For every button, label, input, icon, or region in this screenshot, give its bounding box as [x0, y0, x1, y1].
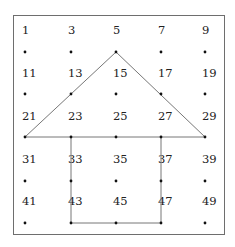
grid-dot: [115, 93, 118, 96]
grid-dot: [24, 93, 27, 96]
grid-dot: [24, 136, 27, 139]
grid-dot: [204, 136, 207, 139]
grid-dot: [160, 93, 163, 96]
grid-dot: [115, 180, 118, 183]
grid-dot: [70, 136, 73, 139]
house-drawing: [0, 0, 235, 247]
grid-dot: [70, 180, 73, 183]
grid-dot: [70, 93, 73, 96]
grid-dot: [160, 222, 163, 225]
grid-dot: [204, 180, 207, 183]
grid-dot: [70, 222, 73, 225]
grid-dot: [160, 51, 163, 54]
grid-dot: [24, 180, 27, 183]
grid-dot: [115, 136, 118, 139]
grid-dot: [160, 180, 163, 183]
grid-dot: [70, 51, 73, 54]
grid-dot: [24, 51, 27, 54]
grid-dot: [204, 51, 207, 54]
grid-dot: [204, 222, 207, 225]
grid-dot: [204, 93, 207, 96]
grid-dot: [24, 222, 27, 225]
grid-dot: [160, 136, 163, 139]
grid-dot: [115, 222, 118, 225]
grid-dot: [115, 51, 118, 54]
